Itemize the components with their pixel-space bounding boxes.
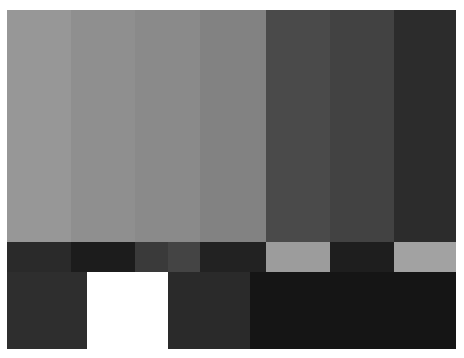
top-bar-5 <box>266 10 330 242</box>
top-bar-4 <box>200 10 266 242</box>
bottom-block-2 <box>87 272 168 349</box>
bottom-block-4 <box>250 272 456 349</box>
top-bar-6 <box>330 10 394 242</box>
bottom-pluge-blocks <box>7 272 456 349</box>
test-pattern <box>7 10 456 349</box>
top-bar-3 <box>135 10 200 242</box>
middle-segment-6 <box>266 242 330 272</box>
middle-segment-5 <box>200 242 266 272</box>
middle-segment-2 <box>71 242 135 272</box>
middle-segment-7 <box>330 242 394 272</box>
bottom-block-3 <box>168 272 250 349</box>
middle-segment-3 <box>135 242 168 272</box>
bottom-block-1 <box>7 272 87 349</box>
middle-segment-8 <box>394 242 456 272</box>
top-bar-7 <box>394 10 456 242</box>
top-bar-2 <box>71 10 135 242</box>
top-bar-1 <box>7 10 71 242</box>
middle-segment-1 <box>7 242 71 272</box>
middle-segment-4 <box>168 242 200 272</box>
middle-castellation-strip <box>7 242 456 272</box>
top-color-bars <box>7 10 456 242</box>
